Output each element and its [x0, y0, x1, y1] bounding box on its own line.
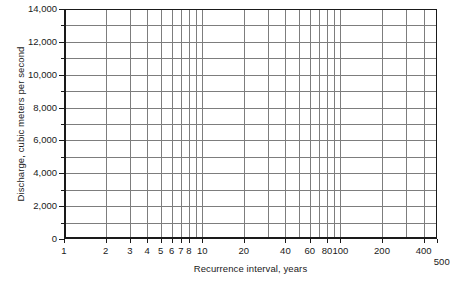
y-tick-label-text: 14,000	[28, 3, 57, 14]
x-tick-label-text: 8	[186, 245, 191, 256]
y-tick-label-text: 0	[52, 233, 57, 244]
y-tick-label-text: 10,000	[28, 69, 57, 80]
x-tick-label-text: 2	[103, 245, 108, 256]
y-tick-label-text: 4,000	[33, 167, 57, 178]
x-tick-label-text: 5	[158, 245, 163, 256]
x-axis-title: Recurrence interval, years	[64, 263, 437, 274]
x-tick-label-text: 6	[169, 245, 174, 256]
plot-grid	[64, 9, 437, 239]
y-tick-label-text: 8,000	[33, 102, 57, 113]
y-tick-label-text: 6,000	[33, 134, 57, 145]
x-tick-label-text: 100	[332, 245, 348, 256]
x-tick-label-text: 200	[374, 245, 390, 256]
x-tick-label-text: 10	[197, 245, 208, 256]
x-tick-label-text: 3	[127, 245, 132, 256]
y-tick-label-text: 12,000	[28, 36, 57, 47]
x-tick-label-text: 80	[322, 245, 333, 256]
x-tick-label-text: 40	[280, 245, 291, 256]
x-tick-label-text: 7	[178, 245, 183, 256]
x-tick-label-text: 4	[145, 245, 150, 256]
y-tick-label-text: 2,000	[33, 200, 57, 211]
x-tick-label-text: 20	[239, 245, 250, 256]
x-tick-label-text: 60	[304, 245, 315, 256]
x-tick-label-text: 1	[61, 245, 66, 256]
plot-area	[64, 9, 437, 239]
x-tick-label-text: 400	[416, 245, 432, 256]
horizontal-gridlines	[64, 26, 437, 223]
y-axis-title: Discharge, cubic meters per second	[14, 9, 28, 239]
